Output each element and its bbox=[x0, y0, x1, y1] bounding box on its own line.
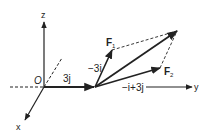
x-axis-label: x bbox=[16, 122, 21, 132]
x-axis bbox=[25, 87, 44, 120]
z-axis-label: z bbox=[41, 10, 46, 20]
y-axis-label: y bbox=[194, 82, 199, 92]
f1-component-label: −3i bbox=[88, 63, 102, 74]
f2-component-label: −i+3j bbox=[122, 82, 144, 93]
negative-x-axis-dashed bbox=[44, 58, 62, 87]
f1-label: F1 bbox=[106, 37, 116, 49]
parallelogram-side-f1 bbox=[112, 31, 177, 50]
f2-label: F2 bbox=[164, 66, 174, 78]
origin-label: O bbox=[34, 75, 42, 86]
vector-diagram: z x y O 3j −3i −i+3j F1 F2 bbox=[0, 0, 209, 139]
displacement-label: 3j bbox=[63, 73, 71, 84]
